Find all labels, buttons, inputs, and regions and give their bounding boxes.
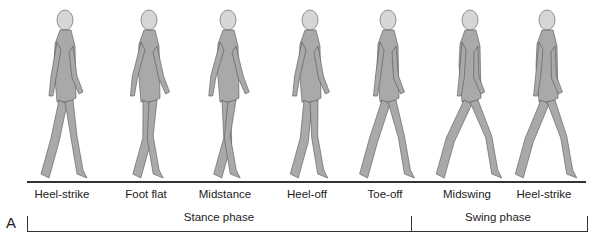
walking-figure-icon [190, 6, 260, 182]
walking-figure-icon [111, 6, 181, 182]
gait-cycle-diagram: Heel-strikeFoot flatMidstanceHeel-offToe… [0, 0, 601, 246]
swing-phase-label: Swing phase [465, 211, 531, 223]
walking-figure-icon [509, 6, 579, 182]
stance-phase-label: Stance phase [184, 211, 254, 223]
gait-event-label: Heel-strike [517, 188, 572, 200]
gait-event-label: Toe-off [368, 188, 403, 200]
walking-figure-icon [350, 6, 420, 182]
walking-figure-icon [432, 6, 502, 182]
gait-event-label: Midstance [199, 188, 251, 200]
ground-line [27, 181, 586, 183]
gait-event-label: Foot flat [125, 188, 167, 200]
gait-event-label: Midswing [443, 188, 491, 200]
walking-figure-icon [27, 6, 97, 182]
panel-label: A [6, 214, 16, 231]
gait-event-label: Heel-off [287, 188, 327, 200]
gait-event-label: Heel-strike [35, 188, 90, 200]
walking-figure-icon [272, 6, 342, 182]
